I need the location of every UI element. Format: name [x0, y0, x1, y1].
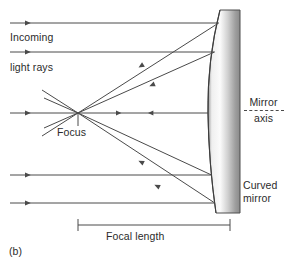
incoming-label-line1: Incoming — [10, 31, 53, 44]
axis-arrowhead-right — [116, 111, 121, 116]
arrowhead-axis-ray — [25, 110, 31, 115]
mirror-axis-label-line2: axis — [243, 112, 284, 125]
curved-mirror-label-line1: Curved — [243, 179, 277, 192]
diverging-ray-4 — [44, 98, 78, 113]
arrowhead-ray-4 — [25, 172, 31, 177]
incoming-label-line2: light rays — [10, 61, 53, 74]
mirror-axis-label: Mirror axis — [243, 96, 284, 125]
arrowhead-reflected-5 — [153, 182, 160, 189]
mirror-body — [208, 10, 240, 213]
curved-mirror-label: Curved mirror — [243, 179, 277, 205]
arrowhead-ray-5 — [25, 200, 31, 205]
focal-length-label: Focal length — [106, 230, 164, 243]
incoming-light-rays-label: Incoming light rays — [10, 31, 53, 74]
axis-arrowhead-left — [148, 111, 153, 116]
curved-mirror-shape — [208, 10, 240, 213]
mirror-axis-label-line1: Mirror — [243, 96, 284, 109]
panel-label: (b) — [9, 245, 22, 258]
mirror-axis-dash-icon — [244, 110, 284, 111]
arrowhead-reflected-4 — [137, 158, 144, 165]
arrowhead-ray-1 — [25, 20, 31, 25]
diverging-ray-5 — [42, 90, 78, 113]
focus-label: Focus — [57, 126, 86, 139]
curved-mirror-ray-diagram: Incoming light rays Focus Mirror axis Cu… — [0, 0, 288, 267]
reflected-ray-4 — [78, 113, 212, 175]
reflected-ray-5 — [78, 113, 215, 203]
arrowhead-reflected-1 — [137, 62, 145, 70]
curved-mirror-label-line2: mirror — [243, 192, 277, 205]
reflected-ray-1 — [78, 23, 219, 113]
arrowhead-reflected-2 — [148, 81, 155, 88]
reflected-ray-2 — [78, 52, 215, 113]
